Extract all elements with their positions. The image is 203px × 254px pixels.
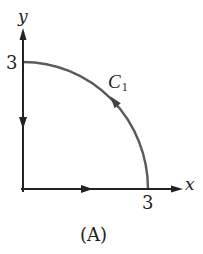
direction-arrow-right-icon <box>81 185 93 193</box>
diagram-canvas <box>0 0 203 254</box>
x-axis-tick-label: 3 <box>142 194 153 212</box>
diagram-figure: y x 3 3 C1 (A) <box>0 0 203 254</box>
y-axis-tick-label: 3 <box>6 54 17 72</box>
x-axis-arrowhead-icon <box>171 186 183 193</box>
y-axis-label: y <box>18 8 28 25</box>
direction-arrow-down-icon <box>19 117 27 129</box>
curve-label: C1 <box>108 72 128 93</box>
arc-c1 <box>23 62 148 189</box>
curve-label-subscript: 1 <box>122 80 128 94</box>
x-axis-label: x <box>185 176 195 193</box>
y-axis-arrowhead-icon <box>20 28 27 40</box>
figure-caption: (A) <box>80 226 107 244</box>
curve-label-name: C <box>108 71 121 92</box>
